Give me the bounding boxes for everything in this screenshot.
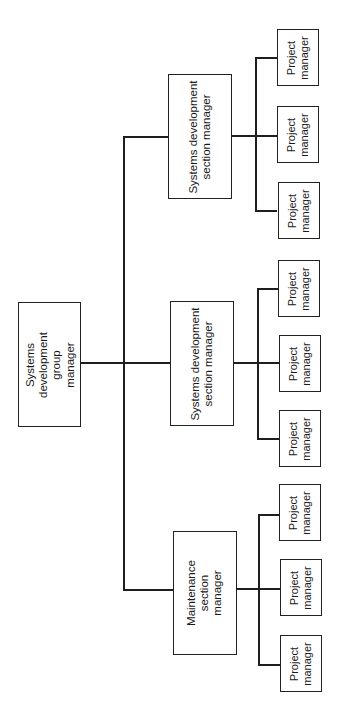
section-2-box: Systems development section manager xyxy=(170,301,234,426)
section-3-subtrunk xyxy=(258,514,260,666)
section-3-out xyxy=(236,588,260,590)
section-3-pm-2-box: Project manager xyxy=(280,559,322,616)
pm-label: Project manager xyxy=(286,261,311,317)
section-2-pm-2-box: Project manager xyxy=(279,335,321,392)
section-2-pm-1-link xyxy=(257,288,279,290)
pm-label: Project manager xyxy=(288,636,313,692)
section-2-out xyxy=(234,362,259,364)
section-2-pm-3-box: Project manager xyxy=(279,410,321,467)
pm-label: Project manager xyxy=(287,485,312,541)
section-3-pm-1-link xyxy=(258,514,280,516)
pm-label: Project manager xyxy=(288,560,313,616)
section-1-pm-2-link xyxy=(255,135,277,137)
pm-label: Project manager xyxy=(285,30,310,86)
section-3-pm-3-link xyxy=(258,664,280,666)
section-1-pm-3-box: Project manager xyxy=(278,182,320,239)
section-1-connector xyxy=(123,136,169,138)
section-3-pm-2-link xyxy=(258,588,280,590)
section-1-label: Systems development section manager xyxy=(187,77,213,197)
section-3-label: Maintenance section manager xyxy=(185,533,225,653)
section-1-pm-2-box: Project manager xyxy=(277,106,319,163)
pm-label: Project manager xyxy=(286,183,311,239)
section-2-label: Systems development section manager xyxy=(189,304,215,424)
section-3-pm-1-box: Project manager xyxy=(279,484,321,541)
root-connector xyxy=(80,362,172,364)
section-3-connector xyxy=(124,589,174,591)
section-1-pm-3-link xyxy=(255,210,277,212)
section-1-out xyxy=(232,135,257,137)
main-trunk xyxy=(123,136,125,591)
section-2-pm-1-box: Project manager xyxy=(278,260,320,317)
section-3-box: Maintenance section manager xyxy=(173,531,237,655)
section-1-pm-1-box: Project manager xyxy=(277,29,319,86)
pm-label: Project manager xyxy=(287,336,312,392)
group-manager-box: Systems development group manager xyxy=(18,302,81,427)
pm-label: Project manager xyxy=(285,107,310,163)
section-2-subtrunk xyxy=(257,288,259,440)
section-1-box: Systems development section manager xyxy=(168,74,232,199)
group-manager-label: Systems development group manager xyxy=(23,305,76,425)
pm-label: Project manager xyxy=(287,411,312,467)
section-2-pm-3-link xyxy=(257,438,279,440)
section-2-pm-2-link xyxy=(257,362,279,364)
section-1-pm-1-link xyxy=(255,57,277,59)
section-3-pm-3-box: Project manager xyxy=(280,635,322,692)
